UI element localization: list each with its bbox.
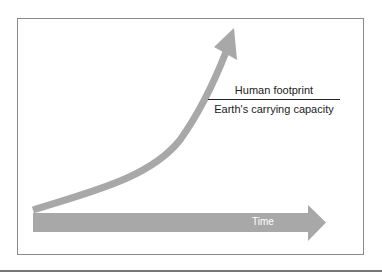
bottom-divider xyxy=(0,270,382,272)
diagram-canvas xyxy=(0,0,382,273)
growth-curve-arrow xyxy=(33,52,226,210)
numerator-label: Human footprint xyxy=(208,83,340,97)
fraction-divider xyxy=(208,99,340,100)
time-axis-label: Time xyxy=(245,215,281,228)
denominator-label: Earth's carrying capacity xyxy=(208,102,340,116)
time-axis-arrow xyxy=(33,205,326,241)
